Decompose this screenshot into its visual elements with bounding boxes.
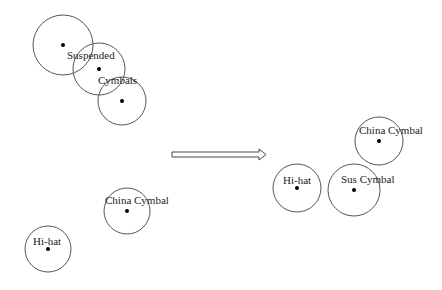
- hi-hat-node-before: Hi-hat: [25, 226, 71, 272]
- center-dot: [120, 99, 124, 103]
- center-dot: [352, 188, 356, 192]
- label-cymbals: Cymbals: [98, 74, 137, 86]
- hi-hat-node-after: Hi-hat: [273, 164, 321, 212]
- cymbal-diagram: Suspended Cymbals China Cymbal Hi-hat Ch…: [0, 0, 442, 290]
- center-dot: [377, 139, 381, 143]
- label-china-cymbal: China Cymbal: [359, 124, 423, 136]
- china-cymbal-node-after: China Cymbal: [355, 117, 423, 165]
- sus-cymbal-node-after: Sus Cymbal: [328, 164, 394, 216]
- center-dot: [97, 67, 101, 71]
- after-arrangement: China Cymbal Hi-hat Sus Cymbal: [273, 117, 423, 216]
- center-dot: [46, 247, 50, 251]
- center-dot: [295, 186, 299, 190]
- label-china-cymbal: China Cymbal: [105, 194, 169, 206]
- china-cymbal-node-before: China Cymbal: [104, 188, 169, 234]
- suspended-cymbal-1-node: [33, 15, 93, 75]
- center-dot: [61, 43, 65, 47]
- label-sus-cymbal: Sus Cymbal: [341, 173, 394, 185]
- before-arrangement: Suspended Cymbals China Cymbal Hi-hat: [25, 15, 169, 272]
- label-suspended: Suspended: [67, 49, 115, 61]
- label-hi-hat: Hi-hat: [33, 235, 61, 247]
- transition-arrow-icon: [172, 149, 266, 160]
- label-hi-hat: Hi-hat: [283, 174, 311, 186]
- center-dot: [125, 209, 129, 213]
